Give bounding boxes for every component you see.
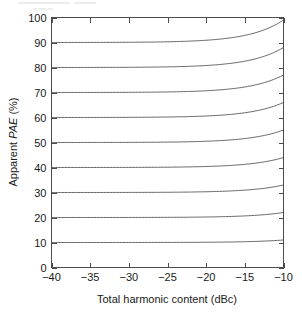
- apparent-pae-line-chart: −40−35−30−25−20−15−10 010203040506070809…: [0, 0, 302, 316]
- y-tick-label-9: 90: [34, 37, 46, 49]
- x-tick-label-6: −10: [274, 271, 293, 283]
- y-tick-label-0: 0: [40, 262, 46, 274]
- chart-figure: −40−35−30−25−20−15−10 010203040506070809…: [0, 0, 302, 316]
- y-axis-title: Apparent PAE (%): [7, 97, 19, 186]
- y-tick-label-1: 10: [34, 237, 46, 249]
- x-tick-label-5: −15: [235, 271, 254, 283]
- y-tick-label-10: 100: [28, 12, 46, 24]
- y-tick-label-6: 60: [34, 112, 46, 124]
- y-axis-title-italic: PAE: [7, 117, 19, 139]
- y-axis-title-suffix: (%): [7, 97, 19, 117]
- x-tick-label-1: −35: [81, 271, 100, 283]
- x-axis-title: Total harmonic content (dBc): [97, 293, 237, 305]
- y-tick-label-3: 30: [34, 187, 46, 199]
- y-axis-title-prefix: Apparent: [7, 139, 19, 187]
- y-tick-label-4: 40: [34, 162, 46, 174]
- x-tick-label-2: −30: [119, 271, 138, 283]
- y-tick-label-8: 80: [34, 62, 46, 74]
- y-tick-label-2: 20: [34, 212, 46, 224]
- y-tick-label-5: 50: [34, 137, 46, 149]
- x-tick-label-3: −25: [158, 271, 177, 283]
- x-tick-label-4: −20: [197, 271, 216, 283]
- y-tick-label-7: 70: [34, 87, 46, 99]
